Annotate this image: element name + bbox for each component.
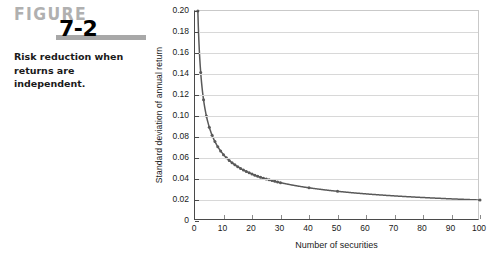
y-tick-label: 0.02 [172, 194, 189, 204]
data-point-marker [276, 181, 279, 184]
data-point-marker [222, 153, 225, 156]
y-tick-mark [195, 95, 199, 96]
data-point-marker [253, 174, 256, 177]
curve-path [198, 11, 480, 200]
data-point-marker [273, 180, 276, 183]
x-tick-label: 100 [472, 223, 486, 233]
figure-caption-text: Risk reduction when returns are independ… [14, 50, 132, 91]
y-tick-mark [195, 74, 199, 75]
y-tick-mark [195, 221, 199, 222]
x-tick-mark [281, 215, 282, 219]
y-tick-label: 0.10 [172, 110, 189, 120]
x-tick-mark [480, 215, 481, 219]
x-tick-label: 50 [332, 223, 341, 233]
y-tick-label: 0.12 [172, 89, 189, 99]
y-tick-label: 0 [184, 215, 189, 225]
y-axis-label-text: Standard deviation of annual return [154, 47, 164, 183]
y-tick-mark [195, 32, 199, 33]
figure-number-row: 7-2 [14, 18, 146, 40]
gridline [195, 53, 478, 54]
data-point-marker [202, 98, 205, 101]
plot-area [194, 10, 479, 220]
data-point-marker [279, 181, 282, 184]
y-tick-mark [195, 53, 199, 54]
data-point-marker [242, 169, 245, 172]
y-tick-mark [195, 200, 199, 201]
x-tick-label: 60 [360, 223, 369, 233]
data-point-marker [231, 161, 234, 164]
x-tick-label: 70 [389, 223, 398, 233]
y-tick-label: 0.18 [172, 26, 189, 36]
x-tick-mark [395, 215, 396, 219]
y-tick-label: 0.20 [172, 5, 189, 15]
x-tick-label: 10 [218, 223, 227, 233]
gridline [195, 32, 478, 33]
x-tick-label: 80 [417, 223, 426, 233]
x-tick-mark [366, 215, 367, 219]
gridline [195, 74, 478, 75]
data-point-marker [213, 140, 216, 143]
data-point-marker [208, 126, 211, 129]
y-tick-mark [195, 137, 199, 138]
data-point-marker [216, 145, 219, 148]
gridline [195, 116, 478, 117]
y-axis-tick-labels: 00.020.040.060.080.100.120.140.160.180.2… [164, 4, 192, 226]
x-tick-mark [452, 215, 453, 219]
y-tick-mark [195, 179, 199, 180]
y-tick-label: 0.16 [172, 47, 189, 57]
gridline [195, 158, 478, 159]
gridline [195, 179, 478, 180]
figure-number: 7-2 [59, 16, 97, 41]
y-tick-mark [195, 158, 199, 159]
figure-caption-block: FIGURE 7-2 Risk reduction when returns a… [14, 6, 146, 91]
x-tick-label: 30 [275, 223, 284, 233]
y-tick-mark [195, 11, 199, 12]
gridline [195, 200, 478, 201]
x-axis-label: Number of securities [194, 240, 479, 250]
x-tick-label: 90 [446, 223, 455, 233]
data-point-marker [219, 149, 222, 152]
y-tick-label: 0.08 [172, 131, 189, 141]
data-point-marker [248, 171, 251, 174]
data-point-marker [233, 163, 236, 166]
x-tick-label: 0 [192, 223, 197, 233]
x-tick-mark [252, 215, 253, 219]
data-point-marker [236, 165, 239, 168]
data-point-marker [479, 199, 482, 202]
data-point-marker [251, 173, 254, 176]
x-tick-mark [338, 215, 339, 219]
data-point-marker [336, 190, 339, 193]
y-tick-mark [195, 116, 199, 117]
gridline [195, 137, 478, 138]
x-tick-label: 40 [303, 223, 312, 233]
x-tick-label: 20 [246, 223, 255, 233]
data-point-marker [239, 167, 242, 170]
gridline [195, 95, 478, 96]
y-tick-label: 0.04 [172, 173, 189, 183]
data-point-marker [228, 159, 231, 162]
chart: Standard deviation of annual return 00.0… [152, 4, 486, 266]
figure-container: FIGURE 7-2 Risk reduction when returns a… [0, 0, 491, 270]
data-point-marker [245, 170, 248, 173]
y-tick-label: 0.06 [172, 152, 189, 162]
data-point-marker [308, 186, 311, 189]
x-tick-mark [423, 215, 424, 219]
y-tick-label: 0.14 [172, 68, 189, 78]
x-tick-mark [309, 215, 310, 219]
data-point-marker [256, 175, 259, 178]
x-tick-mark [224, 215, 225, 219]
